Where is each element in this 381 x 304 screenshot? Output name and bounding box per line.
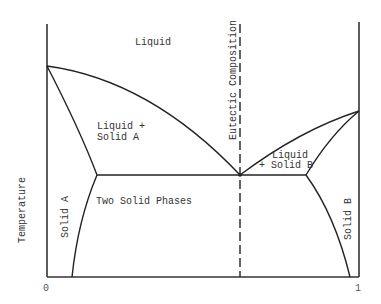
eutectic-point xyxy=(238,173,242,177)
label-two-solid: Two Solid Phases xyxy=(96,196,192,207)
x-tick-1: 1 xyxy=(355,283,361,294)
solvus-a xyxy=(72,175,97,277)
label-liquid-solid-a-2: Solid A xyxy=(97,132,139,143)
label-solid-a: Solid A xyxy=(60,196,71,238)
label-liquid-solid-a-1: Liquid + xyxy=(97,121,145,132)
phase-diagram: Liquid Liquid + Solid A Liquid + Solid B… xyxy=(0,0,381,304)
label-liquid-solid-b-2: + Solid B xyxy=(259,160,313,171)
label-solid-b: Solid B xyxy=(343,198,354,240)
label-liquid: Liquid xyxy=(135,37,171,48)
label-eutectic-composition: Eutectic Composition xyxy=(228,20,239,140)
solidus-a xyxy=(47,66,97,175)
y-axis-label: Temperature xyxy=(17,177,28,243)
x-tick-0: 0 xyxy=(43,283,49,294)
